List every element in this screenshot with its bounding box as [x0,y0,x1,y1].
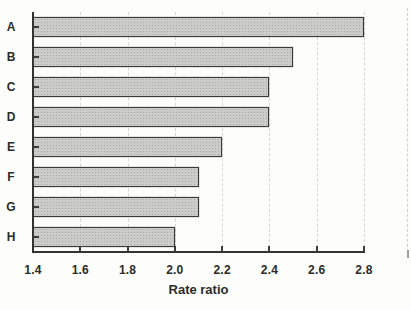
bar-G [33,197,199,217]
x-tick-2.6 [316,246,318,252]
x-tick-2.2 [221,246,223,252]
y-tick-A [34,26,39,28]
y-category-label-C: C [0,72,22,102]
x-tick-label-1.4: 1.4 [13,263,53,277]
x-tick-label-2.0: 2.0 [155,263,195,277]
bar-D [33,107,269,127]
x-tick-2.0 [174,246,176,252]
y-tick-H [34,236,39,238]
x-tick-label-1.8: 1.8 [108,263,148,277]
x-tick-1.6 [79,246,81,252]
y-category-label-G: G [0,192,22,222]
plot-area: ABCDEFGH 1.41.61.82.02.22.42.62.8 Rate r… [0,0,411,310]
y-category-label-E: E [0,132,22,162]
adjacent-figure-edge [407,8,408,252]
x-tick-2.4 [268,246,270,252]
y-tick-D [34,116,39,118]
adjacent-figure-tick [407,250,409,258]
x-tick-label-2.6: 2.6 [297,263,337,277]
y-tick-E [34,146,39,148]
x-tick-1.8 [127,246,129,252]
bar-E [33,137,222,157]
y-category-label-F: F [0,162,22,192]
y-tick-C [34,86,39,88]
y-tick-F [34,176,39,178]
gridline-2.8 [364,12,365,252]
y-tick-G [34,206,39,208]
bar-F [33,167,199,187]
x-tick-label-2.4: 2.4 [249,263,289,277]
rate-ratio-bar-chart: ABCDEFGH 1.41.61.82.02.22.42.62.8 Rate r… [0,0,411,310]
bar-A [33,17,364,37]
x-tick-2.8 [363,246,365,252]
y-category-label-D: D [0,102,22,132]
y-category-label-H: H [0,222,22,252]
y-axis-line [32,12,34,253]
x-tick-label-2.8: 2.8 [344,263,384,277]
bar-C [33,77,269,97]
bar-H [33,227,175,247]
y-category-label-A: A [0,12,22,42]
x-axis-title: Rate ratio [33,282,364,297]
y-tick-B [34,56,39,58]
bar-B [33,47,293,67]
x-tick-label-2.2: 2.2 [202,263,242,277]
x-tick-label-1.6: 1.6 [60,263,100,277]
y-category-label-B: B [0,42,22,72]
gridline-2.6 [317,12,318,252]
